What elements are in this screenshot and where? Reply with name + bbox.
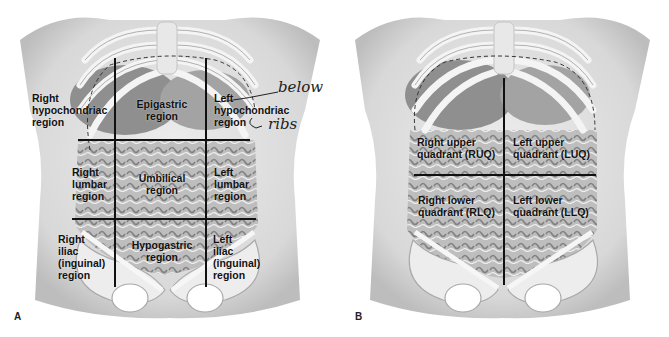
panel-b-four-quadrants: Right upper quadrant (RUQ) Left upper qu… [335, 0, 669, 337]
label-right-lumbar: Right lumbar region [72, 166, 107, 202]
label-umbilical: Umbilical region [130, 172, 194, 196]
label-luq: Left upper quadrant (LUQ) [513, 136, 590, 160]
label-rlq: Right lower quadrant (RLQ) [418, 194, 495, 218]
handwritten-note-ribs: ribs [268, 115, 297, 133]
label-epigastric: Epigastric region [132, 98, 192, 122]
label-right-hypochondriac: Right hypochondriac region [32, 92, 107, 128]
torso-illustration-b [335, 0, 669, 337]
label-right-iliac: Right iliac (inguinal) region [58, 233, 105, 281]
label-llq: Left lower quadrant (LLQ) [513, 194, 589, 218]
panel-letter-b: B [355, 311, 362, 322]
label-left-iliac: Left iliac (inguinal) region [213, 233, 260, 281]
label-left-lumbar: Left lumbar region [214, 166, 249, 202]
torso-illustration-a [0, 0, 335, 337]
label-hypogastric: Hypogastric region [126, 239, 198, 263]
label-ruq: Right upper quadrant (RUQ) [417, 136, 495, 160]
panel-letter-a: A [14, 311, 21, 322]
panel-a-nine-regions: Right hypochondriac region Epigastric re… [0, 0, 335, 337]
handwritten-note-below: below [278, 78, 323, 96]
